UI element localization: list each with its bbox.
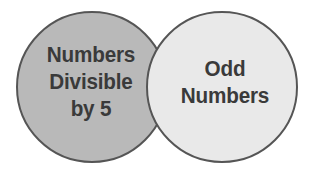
label-numbers-divisible-by-5: Numbers Divisible by 5 xyxy=(21,41,162,122)
label-left-line-2: Divisible xyxy=(21,68,162,95)
label-odd-numbers: Odd Numbers xyxy=(156,55,293,109)
venn-diagram: Numbers Divisible by 5 Odd Numbers xyxy=(0,0,315,173)
label-left-line-1: Numbers xyxy=(21,41,162,68)
label-left-line-3: by 5 xyxy=(21,95,162,122)
label-right-line-2: Numbers xyxy=(156,82,293,109)
label-right-line-1: Odd xyxy=(156,55,293,82)
